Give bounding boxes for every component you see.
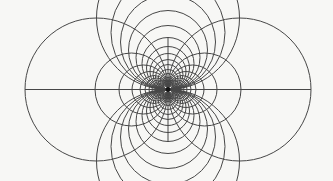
pole-dot [166,87,171,92]
diagram-canvas [0,0,333,181]
inversion-grid-figure [0,0,333,181]
